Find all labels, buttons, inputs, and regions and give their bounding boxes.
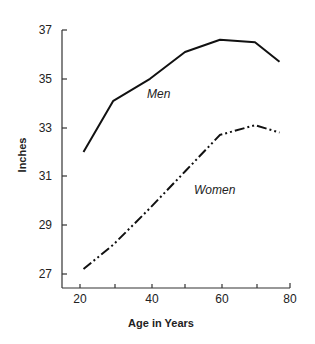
y-tick-33: 33	[39, 121, 53, 135]
x-tick-40: 40	[145, 292, 159, 306]
men-series-line	[84, 40, 280, 152]
men-series-label: Men	[147, 87, 171, 101]
y-axis	[62, 30, 67, 288]
x-tick-20: 20	[73, 292, 87, 306]
women-series-label: Women	[194, 183, 236, 197]
y-tick-35: 35	[39, 72, 53, 86]
x-tick-60: 60	[215, 292, 229, 306]
y-tick-27: 27	[39, 267, 53, 281]
chart: 37 35 33 31 29 27 20 40 60 80 Age in Yea…	[0, 0, 315, 344]
x-axis-title: Age in Years	[128, 317, 194, 329]
y-tick-37: 37	[39, 23, 53, 37]
women-series-line	[84, 125, 280, 269]
y-tick-29: 29	[39, 218, 53, 232]
x-axis	[62, 283, 290, 288]
y-axis-title: Inches	[16, 138, 28, 173]
y-tick-31: 31	[39, 169, 53, 183]
x-tick-80: 80	[283, 292, 297, 306]
